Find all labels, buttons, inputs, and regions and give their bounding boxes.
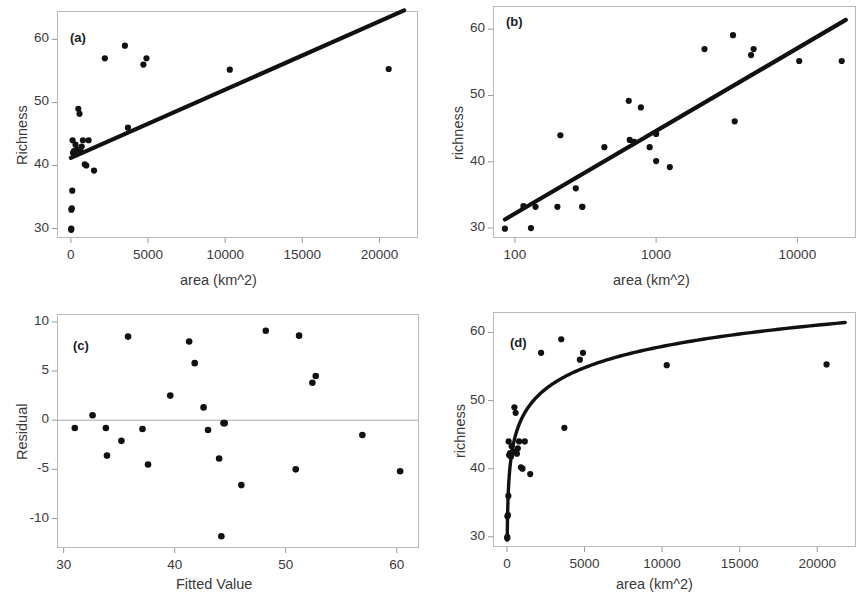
panel-b-x-axis-title: area (km^2) [613,272,690,288]
c-y-tick-label: 5 [5,362,49,377]
d-y-tick-label: 40 [441,460,485,475]
c-y-tick-label: -10 [5,510,49,525]
panel-d-y-axis-title: richness [452,404,468,458]
c-y-tick-label: -5 [5,460,49,475]
b-y-tick-label: 40 [441,153,485,168]
b-x-tick-label: 1000 [616,247,696,262]
d-x-tick-label: 15000 [700,556,780,571]
panel-a-x-axis-title: area (km^2) [180,272,257,288]
b-x-tick-label: 10000 [757,247,837,262]
panel-b-tag: (b) [506,14,523,29]
panel-a-plot-area [57,11,418,238]
d-x-tick-label: 10000 [622,556,702,571]
d-y-tick-label: 30 [441,528,485,543]
panel-d-plot-area [493,312,856,547]
d-x-tick-label: 20000 [777,556,856,571]
b-y-tick-label: 50 [441,86,485,101]
c-y-tick-label: 0 [5,411,49,426]
d-y-tick-label: 50 [441,392,485,407]
panel-c-plot-area [57,314,419,548]
panel-c-tag: (c) [73,338,89,353]
a-y-tick-label: 60 [5,30,49,45]
panel-c: (c) Residual Fitted Value 30405060 1050-… [0,300,428,599]
a-x-tick-label: 0 [31,247,111,262]
a-x-tick-label: 15000 [262,247,342,262]
b-x-tick-label: 100 [475,247,555,262]
c-y-tick-label: 10 [5,313,49,328]
panel-d: (d) richness area (km^2) 050001000015000… [428,300,856,599]
d-x-tick-label: 0 [467,556,547,571]
b-y-tick-label: 30 [441,219,485,234]
panel-b-plot-area [493,6,856,238]
c-x-tick-label: 60 [357,557,437,572]
c-x-tick-label: 40 [135,557,215,572]
panel-c-x-axis-title: Fitted Value [176,576,252,592]
d-x-tick-label: 5000 [545,556,625,571]
panel-b: (b) richness area (km^2) 100100010000 30… [428,0,856,300]
a-y-tick-label: 40 [5,156,49,171]
panel-d-tag: (d) [510,335,527,350]
d-y-tick-label: 60 [441,323,485,338]
panel-d-x-axis-title: area (km^2) [616,576,693,592]
a-x-tick-label: 10000 [185,247,265,262]
a-x-tick-label: 5000 [108,247,188,262]
b-y-tick-label: 60 [441,20,485,35]
a-x-tick-label: 20000 [339,247,419,262]
four-panel-figure: (a) Richness area (km^2) 050001000015000… [0,0,856,599]
c-x-tick-label: 50 [246,557,326,572]
panel-a-tag: (a) [70,30,86,45]
c-x-tick-label: 30 [24,557,104,572]
a-y-tick-label: 30 [5,220,49,235]
a-y-tick-label: 50 [5,93,49,108]
panel-a: (a) Richness area (km^2) 050001000015000… [0,0,428,300]
